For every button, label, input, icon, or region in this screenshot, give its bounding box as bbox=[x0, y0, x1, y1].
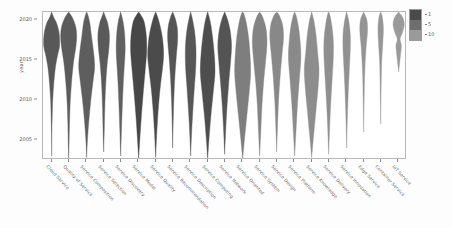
violin-shape bbox=[234, 12, 250, 159]
legend-swatch bbox=[410, 20, 421, 30]
legend-label: 5 bbox=[425, 19, 434, 29]
x-axis-tick-mark bbox=[397, 159, 398, 162]
violin-shape bbox=[393, 12, 404, 72]
y-axis-tick-mark bbox=[34, 99, 37, 100]
x-axis-tick-mark bbox=[241, 159, 242, 162]
x-axis-tick-mark bbox=[155, 159, 156, 162]
x-axis-tick-mark bbox=[137, 159, 138, 162]
plot-area bbox=[42, 11, 406, 159]
violin-shape bbox=[98, 12, 110, 152]
x-axis-tick-mark bbox=[311, 159, 312, 162]
violin-shape bbox=[44, 12, 60, 156]
violin-shape bbox=[200, 12, 215, 159]
violin-service-innovation bbox=[338, 12, 355, 158]
y-axis-tick-mark bbox=[34, 139, 37, 140]
violin-container-service bbox=[372, 12, 389, 158]
x-axis-tick-mark bbox=[172, 159, 173, 162]
violin-service-oriented bbox=[234, 12, 251, 158]
x-axis-tick-mark bbox=[276, 159, 277, 162]
violin-service-model bbox=[130, 12, 147, 158]
x-axis-tick-label: Quality of Service bbox=[62, 164, 93, 197]
violin-service-knowledge bbox=[303, 12, 320, 158]
x-axis-tick-mark bbox=[345, 159, 346, 162]
violin-shape bbox=[117, 12, 126, 156]
violin-quality-of-service bbox=[60, 12, 77, 158]
x-axis-tick-label: Service Composition bbox=[80, 164, 116, 202]
legend-label: 1 bbox=[425, 9, 434, 19]
violin-edge-service bbox=[355, 12, 372, 158]
y-axis-tick-label: 2005 bbox=[7, 136, 37, 142]
violin-service-computing bbox=[199, 12, 216, 158]
violin-shape bbox=[252, 12, 267, 156]
violin-service-discovery bbox=[112, 12, 129, 158]
x-axis: Cloud ServiceQuality of ServiceService C… bbox=[42, 159, 406, 228]
x-axis-tick-label: Container Service bbox=[374, 164, 405, 197]
violin-service-selection bbox=[95, 12, 112, 158]
violin-shape bbox=[148, 12, 164, 158]
legend-swatch bbox=[410, 10, 421, 20]
y-axis-tick-mark bbox=[34, 19, 37, 20]
violin-service-quality bbox=[147, 12, 164, 158]
x-axis-tick-mark bbox=[259, 159, 260, 162]
x-axis-tick-mark bbox=[189, 159, 190, 162]
violin-service-recommendation bbox=[164, 12, 181, 158]
violin-cloud-service bbox=[43, 12, 60, 158]
violin-shape bbox=[378, 12, 383, 124]
x-axis-tick-mark bbox=[328, 159, 329, 162]
x-axis-tick-label: Service Discovery bbox=[114, 164, 146, 197]
violin-service-delivery bbox=[320, 12, 337, 158]
violin-service-description bbox=[182, 12, 199, 158]
y-axis-tick-mark bbox=[34, 59, 37, 60]
x-axis-tick-mark bbox=[85, 159, 86, 162]
violin-shape bbox=[360, 12, 368, 132]
violin-shape bbox=[78, 12, 94, 158]
legend-swatch-column bbox=[409, 9, 422, 41]
violin-chart: year 2005201020152020 Cloud ServiceQuali… bbox=[0, 0, 453, 228]
legend-swatch bbox=[410, 30, 421, 40]
violin-shape bbox=[304, 12, 319, 158]
legend-label-column: 1510 bbox=[425, 9, 434, 39]
x-axis-tick-mark bbox=[293, 159, 294, 162]
x-axis-tick-mark bbox=[363, 159, 364, 162]
x-axis-tick-mark bbox=[68, 159, 69, 162]
violin-shape bbox=[168, 12, 178, 148]
violin-shape bbox=[185, 12, 196, 156]
violin-shape bbox=[324, 12, 334, 154]
x-axis-tick-mark bbox=[207, 159, 208, 162]
y-axis-tick-label: 2010 bbox=[7, 96, 37, 102]
violin-shape bbox=[218, 12, 232, 154]
violin-iot-service bbox=[390, 12, 406, 158]
x-axis-tick-mark bbox=[103, 159, 104, 162]
violin-service-system bbox=[251, 12, 268, 158]
chart-legend: 1510 bbox=[409, 9, 434, 41]
x-axis-tick-mark bbox=[51, 159, 52, 162]
violin-shape bbox=[270, 12, 284, 152]
x-axis-tick-label: Service Knowledge bbox=[305, 164, 338, 199]
x-axis-tick-label: Service Innovation bbox=[340, 164, 373, 199]
violin-shape bbox=[130, 12, 146, 159]
y-axis-tick-label: 2015 bbox=[7, 56, 37, 62]
violin-shape bbox=[61, 12, 77, 159]
x-axis-tick-mark bbox=[224, 159, 225, 162]
x-axis-tick-mark bbox=[120, 159, 121, 162]
x-axis-tick-mark bbox=[380, 159, 381, 162]
y-axis-tick-label: 2020 bbox=[7, 16, 37, 22]
violin-service-composition bbox=[78, 12, 95, 158]
violin-service-network bbox=[216, 12, 233, 158]
violin-shape bbox=[288, 12, 301, 156]
legend-label: 10 bbox=[425, 29, 434, 39]
violin-service-platform bbox=[286, 12, 303, 158]
x-axis-tick-label: Service Computing bbox=[201, 164, 234, 199]
x-axis-tick-label: Service Description bbox=[184, 164, 218, 200]
violin-shape bbox=[343, 12, 351, 148]
y-axis-tick-labels: 2005201020152020 bbox=[12, 0, 37, 228]
violin-service-design bbox=[268, 12, 285, 158]
